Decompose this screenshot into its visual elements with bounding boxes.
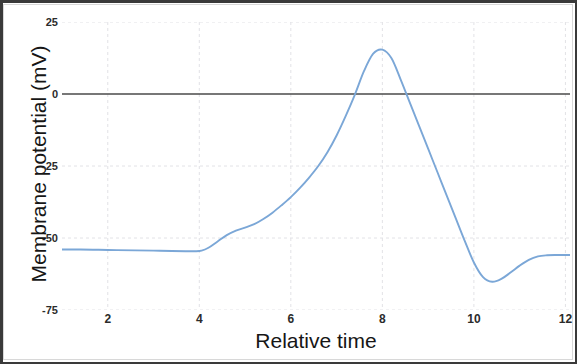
x-tick-label: 6 — [276, 312, 306, 326]
y-tick-label: 0 — [18, 88, 58, 100]
x-tick-labels: 24681012 — [0, 312, 577, 330]
x-tick-label: 10 — [459, 312, 489, 326]
x-tick-label: 12 — [550, 312, 577, 326]
chart-page: Membrane potential (mV) 250-25-50-75 246… — [0, 0, 577, 364]
action-potential-curve — [62, 22, 570, 310]
gridlines — [62, 22, 570, 310]
x-axis-title: Relative time — [62, 329, 570, 353]
y-tick-label: -25 — [18, 160, 58, 172]
x-tick-label: 2 — [93, 312, 123, 326]
y-tick-labels: 250-25-50-75 — [14, 0, 58, 364]
x-tick-label: 8 — [367, 312, 397, 326]
y-tick-label: 25 — [18, 16, 58, 28]
y-tick-label: -50 — [18, 232, 58, 244]
x-tick-label: 4 — [184, 312, 214, 326]
plot-area — [62, 22, 570, 310]
